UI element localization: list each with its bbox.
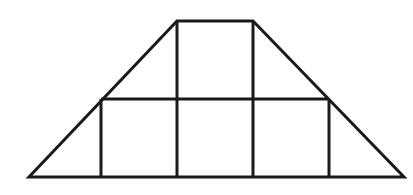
trapezoid-grid-figure (0, 0, 413, 195)
diagram-canvas (0, 0, 413, 195)
